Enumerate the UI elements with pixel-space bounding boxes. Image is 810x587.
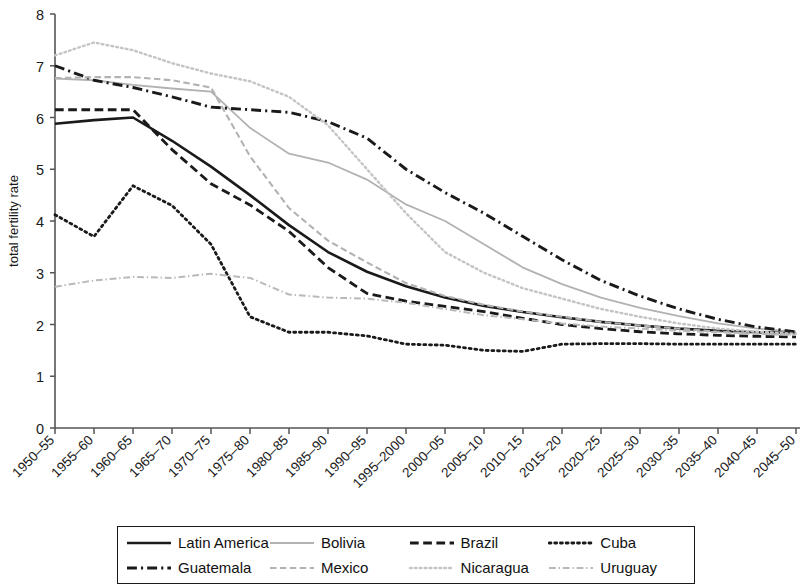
chart-root: 012345678 1950–551955–601960–651965–7019…	[0, 0, 810, 587]
chart-legend: Latin AmericaBoliviaBrazilCubaGuatemalaM…	[117, 526, 695, 584]
y-tick-label: 6	[36, 111, 44, 127]
y-tick-label: 2	[36, 318, 44, 334]
legend-label: Latin America	[178, 534, 269, 551]
x-tick-label: 2045–50	[750, 433, 798, 481]
legend-item-latin-america[interactable]: Latin America	[126, 530, 269, 555]
y-axis-title-text: total fertility rate	[6, 175, 21, 267]
y-tick-label: 5	[36, 162, 44, 178]
y-tick-label: 4	[36, 214, 44, 230]
x-tick-label: 1975–80	[204, 433, 252, 481]
series-line-bolivia	[55, 79, 796, 332]
legend-item-mexico[interactable]: Mexico	[269, 555, 409, 580]
x-tick-label: 2000–05	[399, 433, 447, 481]
x-tick-label: 2015–20	[516, 433, 564, 481]
x-tick-label: 2030–35	[633, 433, 681, 481]
x-tick-label: 2040–45	[711, 433, 759, 481]
x-tick-label: 1955–60	[48, 433, 96, 481]
legend-label: Nicaragua	[461, 559, 529, 576]
legend-item-cuba[interactable]: Cuba	[548, 530, 688, 555]
x-tick-label: 2020–25	[555, 433, 603, 481]
x-tick-label: 1950–55	[9, 433, 57, 481]
legend-swatch-dashed-line	[269, 561, 315, 575]
x-axis: 1950–551955–601960–651965–701970–751975–…	[9, 428, 800, 491]
legend-swatch-solid-line	[126, 536, 172, 550]
series-line-mexico	[55, 77, 796, 335]
y-tick-label: 7	[36, 59, 44, 75]
x-tick-label: 2010–15	[477, 433, 525, 481]
legend-grid: Latin AmericaBoliviaBrazilCubaGuatemalaM…	[118, 527, 694, 583]
legend-swatch-dashdot-line	[548, 561, 594, 575]
y-tick-label: 1	[36, 369, 44, 385]
x-tick-label: 2005–10	[438, 433, 486, 481]
legend-swatch-dashed-line	[409, 536, 455, 550]
x-tick-label: 1960–65	[87, 433, 135, 481]
y-tick-label: 3	[36, 266, 44, 282]
x-tick-label: 1985–90	[282, 433, 330, 481]
legend-item-bolivia[interactable]: Bolivia	[269, 530, 409, 555]
x-tick-label: 1970–75	[165, 433, 213, 481]
fertility-rate-line-chart: 012345678 1950–551955–601960–651965–7019…	[0, 0, 810, 520]
legend-label: Guatemala	[178, 559, 251, 576]
legend-item-nicaragua[interactable]: Nicaragua	[409, 555, 549, 580]
series-lines	[55, 42, 796, 351]
legend-swatch-dashdot-line	[126, 561, 172, 575]
x-tick-label: 1965–70	[126, 433, 174, 481]
y-axis: 012345678	[36, 7, 55, 437]
series-line-cuba	[55, 186, 796, 352]
y-tick-label: 8	[36, 7, 44, 23]
x-tick-label: 2025–30	[594, 433, 642, 481]
series-line-latin-america	[55, 118, 796, 333]
legend-swatch-solid-line	[269, 536, 315, 550]
legend-label: Mexico	[321, 559, 369, 576]
legend-item-guatemala[interactable]: Guatemala	[126, 555, 269, 580]
legend-item-uruguay[interactable]: Uruguay	[548, 555, 688, 580]
legend-label: Cuba	[600, 534, 636, 551]
series-line-brazil	[55, 110, 796, 337]
y-tick-label: 0	[36, 421, 44, 437]
legend-swatch-dotted-line	[548, 536, 594, 550]
x-tick-label: 1980–85	[243, 433, 291, 481]
y-axis-title: total fertility rate	[6, 175, 21, 267]
legend-swatch-dotted-line	[409, 561, 455, 575]
x-tick-label: 2035–40	[672, 433, 720, 481]
legend-item-brazil[interactable]: Brazil	[409, 530, 549, 555]
plot-area: 012345678 1950–551955–601960–651965–7019…	[0, 0, 810, 520]
legend-label: Uruguay	[600, 559, 657, 576]
legend-label: Bolivia	[321, 534, 365, 551]
legend-label: Brazil	[461, 534, 499, 551]
